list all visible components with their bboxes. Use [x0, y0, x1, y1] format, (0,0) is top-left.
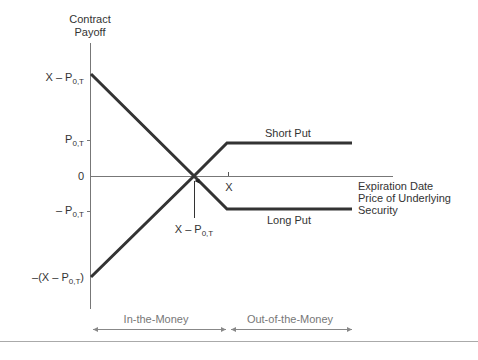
y-tick-label-p: P0,T — [65, 133, 84, 148]
x-axis-title-line1: Expiration Date — [358, 180, 433, 192]
y-axis-title-line1: Contract — [69, 13, 111, 25]
x-axis-title-line3: Security — [358, 204, 398, 216]
y-tick-label-neg-x-minus-p: –(X – P0,T) — [32, 271, 84, 286]
out-of-the-money-label: Out-of-the-Money — [247, 313, 334, 325]
short-put-label: Short Put — [265, 127, 311, 139]
in-the-money-label: In-the-Money — [124, 313, 189, 325]
y-axis-title-line2: Payoff — [75, 26, 107, 38]
x-tick-label-strike: X — [225, 181, 233, 193]
y-tick-label-zero: 0 — [78, 170, 84, 182]
x-tick-label-breakeven: X – P0,T — [175, 223, 214, 238]
y-tick-label-neg-p: – P0,T — [56, 204, 84, 219]
put-payoff-diagram: Contract Payoff Expiration Date Price of… — [0, 0, 478, 360]
y-tick-label-x-minus-p: X – P0,T — [46, 71, 85, 86]
long-put-label: Long Put — [267, 214, 311, 226]
x-axis-title-line2: Price of Underlying — [358, 192, 451, 204]
